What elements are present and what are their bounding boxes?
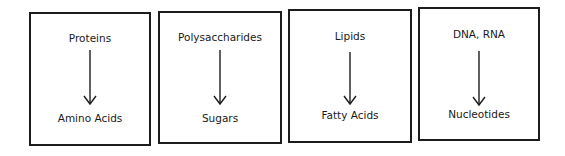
macromolecule-label: Polysaccharides <box>160 31 280 43</box>
monomer-label: Nucleotides <box>420 108 538 120</box>
box-nucleic-acids: DNA, RNA Nucleotides <box>418 7 540 141</box>
arrow-down-icon <box>343 52 357 106</box>
box-lipids: Lipids Fatty Acids <box>288 9 412 143</box>
monomer-label: Sugars <box>160 112 280 124</box>
box-proteins: Proteins Amino Acids <box>29 12 151 146</box>
arrow-down-icon <box>213 50 227 106</box>
macromolecule-label: DNA, RNA <box>420 28 538 40</box>
arrow-down-icon <box>83 50 97 106</box>
box-polysaccharides: Polysaccharides Sugars <box>158 11 282 144</box>
macromolecule-label: Proteins <box>31 32 149 44</box>
monomer-label: Fatty Acids <box>290 109 410 121</box>
arrow-down-icon <box>472 51 486 107</box>
macromolecule-label: Lipids <box>290 30 410 42</box>
monomer-label: Amino Acids <box>31 112 149 124</box>
